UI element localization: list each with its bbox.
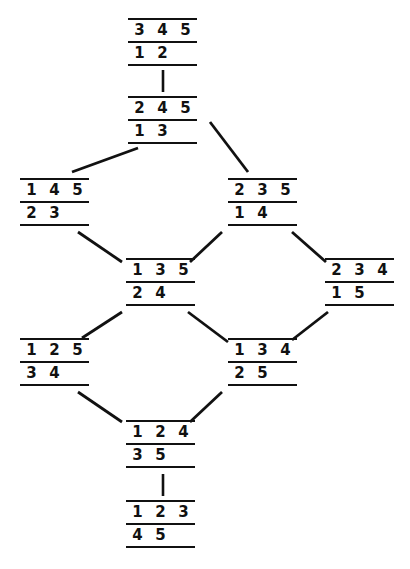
tableau-node: 12534: [20, 338, 89, 384]
tableau-cell: 5: [149, 525, 172, 546]
tableau-cell: 2: [151, 43, 174, 64]
cover-edge-diagonal: [292, 232, 326, 262]
tableau-row: 25: [228, 361, 297, 386]
tableau-row: 135: [126, 258, 195, 283]
tableau-node: 13524: [126, 258, 195, 304]
tableau-row: 23: [20, 201, 89, 226]
tableau-cell: 3: [151, 121, 174, 142]
tableau-cell: 4: [251, 203, 274, 224]
tableau-cell: 3: [172, 502, 195, 523]
tableau-row: 134: [228, 338, 297, 363]
tableau-cell: 1: [128, 121, 151, 142]
tableau-row: 145: [20, 178, 89, 203]
tableau-cell: 4: [151, 98, 174, 119]
tableau-cell: 1: [126, 502, 149, 523]
tableau-row: 24: [126, 281, 195, 306]
tableau-cell: 3: [20, 363, 43, 384]
cover-edge-diagonal: [190, 392, 222, 422]
tableau-cell: 5: [174, 98, 197, 119]
tableau-cell: 4: [274, 340, 297, 361]
tableau-node: 23415: [325, 258, 394, 304]
tableau-cell: 4: [172, 422, 195, 443]
cover-edge-diagonal: [78, 232, 122, 262]
tableau-cell: 3: [348, 260, 371, 281]
tableau-cell: 3: [149, 260, 172, 281]
tableau-cell: 1: [228, 203, 251, 224]
tableau-cell: 1: [228, 340, 251, 361]
tableau-row: 124: [126, 420, 195, 445]
tableau-cell: 5: [274, 180, 297, 201]
tableau-cell: 4: [149, 283, 172, 304]
cover-edge-diagonal: [78, 392, 122, 422]
tableau-row: 125: [20, 338, 89, 363]
cover-edge-diagonal: [82, 312, 122, 338]
tableau-row: 123: [126, 500, 195, 525]
tableau-cell: 3: [128, 20, 151, 41]
tableau-node: 23514: [228, 178, 297, 224]
tableau-row: 12: [128, 41, 197, 66]
tableau-node: 24513: [128, 96, 197, 142]
tableau-cell: 5: [251, 363, 274, 384]
tableau-cell: 3: [43, 203, 66, 224]
tableau-node: 14523: [20, 178, 89, 224]
tableau-cell: 2: [149, 422, 172, 443]
tableau-cell: 2: [20, 203, 43, 224]
tableau-cell: 3: [126, 445, 149, 466]
tableau-cell: 4: [43, 363, 66, 384]
tableau-cell: 5: [66, 340, 89, 361]
tableau-row: 235: [228, 178, 297, 203]
tableau-cell: 1: [325, 283, 348, 304]
tableau-row: 345: [128, 18, 197, 43]
tableau-node: 34512: [128, 18, 197, 64]
tableau-cell: 2: [228, 363, 251, 384]
tableau-node: 13425: [228, 338, 297, 384]
tableau-cell: 5: [172, 260, 195, 281]
tableau-cell: 2: [128, 98, 151, 119]
cover-edge-diagonal: [210, 122, 248, 172]
tableau-node: 12345: [126, 500, 195, 546]
tableau-cell: 4: [371, 260, 394, 281]
tableau-cell: 2: [228, 180, 251, 201]
tableau-row: 15: [325, 281, 394, 306]
hasse-diagram: 3451224513145232351413524234151253413425…: [0, 0, 410, 569]
tableau-row: 45: [126, 523, 195, 548]
cover-edge-diagonal: [292, 312, 328, 340]
tableau-cell: 1: [126, 422, 149, 443]
tableau-cell: 5: [348, 283, 371, 304]
tableau-cell: 2: [126, 283, 149, 304]
tableau-cell: 5: [174, 20, 197, 41]
tableau-cell: 2: [325, 260, 348, 281]
tableau-cell: 4: [43, 180, 66, 201]
cover-edge-diagonal: [188, 312, 228, 342]
tableau-cell: 5: [149, 445, 172, 466]
tableau-row: 35: [126, 443, 195, 468]
tableau-cell: 1: [128, 43, 151, 64]
tableau-cell: 3: [251, 340, 274, 361]
tableau-cell: 1: [20, 180, 43, 201]
tableau-cell: 1: [126, 260, 149, 281]
tableau-cell: 2: [149, 502, 172, 523]
tableau-row: 245: [128, 96, 197, 121]
tableau-cell: 4: [126, 525, 149, 546]
tableau-cell: 1: [20, 340, 43, 361]
tableau-row: 14: [228, 201, 297, 226]
tableau-node: 12435: [126, 420, 195, 466]
tableau-cell: 4: [151, 20, 174, 41]
tableau-cell: 2: [43, 340, 66, 361]
tableau-cell: 5: [66, 180, 89, 201]
tableau-row: 234: [325, 258, 394, 283]
cover-edge-diagonal: [72, 148, 138, 172]
tableau-row: 34: [20, 361, 89, 386]
tableau-cell: 3: [251, 180, 274, 201]
tableau-row: 13: [128, 119, 197, 144]
